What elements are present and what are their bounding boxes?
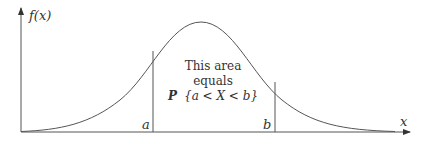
- y-axis-label: f(x): [28, 8, 51, 23]
- bound-b-label: b: [263, 117, 271, 132]
- annotation-line-3: P {a < X < b}: [167, 89, 258, 103]
- bound-a-label: a: [142, 117, 150, 132]
- density-diagram: f(x) x a b This area equals P {a < X < b…: [0, 0, 423, 142]
- annotation-line-1: This area: [185, 59, 242, 73]
- probability-expression: {a < X < b}: [184, 89, 258, 103]
- annotation-line-2: equals: [193, 74, 233, 88]
- probability-symbol: P: [167, 89, 178, 103]
- x-axis-label: x: [400, 114, 408, 129]
